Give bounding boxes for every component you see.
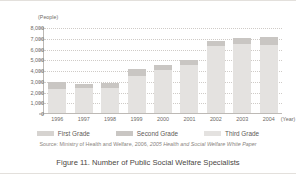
bar-segment bbox=[260, 45, 278, 114]
bar-segment bbox=[48, 82, 66, 90]
x-axis-tick-label: 2004 bbox=[255, 116, 283, 122]
bar-group bbox=[75, 84, 93, 114]
bar-segment bbox=[75, 88, 93, 114]
legend-item: Third Grade bbox=[204, 130, 259, 137]
legend-label: Third Grade bbox=[225, 130, 259, 137]
chart-legend: First GradeSecond GradeThird Grade bbox=[0, 127, 296, 139]
bar-group bbox=[233, 38, 251, 114]
plot-area bbox=[44, 28, 282, 114]
bar-group bbox=[154, 65, 172, 114]
legend-swatch bbox=[116, 131, 133, 136]
bar-segment bbox=[128, 76, 146, 114]
x-axis-tick-label: 2000 bbox=[149, 116, 177, 122]
x-axis-unit-label: (Year) bbox=[281, 116, 295, 122]
x-axis-tick-label: 1999 bbox=[123, 116, 151, 122]
x-axis-tick-label: 1998 bbox=[96, 116, 124, 122]
x-axis-tick-label: 2003 bbox=[228, 116, 256, 122]
bar-group bbox=[128, 69, 146, 114]
bar-group bbox=[207, 41, 225, 114]
bar-segment bbox=[233, 44, 251, 114]
gridline bbox=[44, 28, 282, 29]
x-axis-tick-label: 1996 bbox=[43, 116, 71, 122]
legend-label: Second Grade bbox=[137, 130, 178, 137]
bar-segment bbox=[154, 70, 172, 114]
x-axis-tick-label: 2001 bbox=[175, 116, 203, 122]
x-axis-tick-label: 1997 bbox=[70, 116, 98, 122]
y-axis-unit-label: (People) bbox=[38, 14, 58, 20]
bar-group bbox=[48, 82, 66, 114]
source-prefix: Source: Ministry of Health and Welfare, … bbox=[39, 141, 148, 147]
legend-item: First Grade bbox=[37, 130, 90, 137]
source-title: 2005 Health and Social Welfare White Pap… bbox=[150, 141, 257, 147]
chart-area: (People) 8,0007,0006,0005,0004,0003,0002… bbox=[0, 1, 296, 121]
figure-caption: Figure 11. Number of Public Social Welfa… bbox=[0, 158, 296, 167]
legend-label: First Grade bbox=[58, 130, 90, 137]
bar-segment bbox=[48, 89, 66, 114]
legend-swatch bbox=[204, 131, 221, 136]
bar-group bbox=[180, 60, 198, 114]
x-axis-line bbox=[44, 113, 282, 114]
legend-item: Second Grade bbox=[116, 130, 178, 137]
bar-segment bbox=[128, 69, 146, 76]
bar-segment bbox=[260, 37, 278, 46]
bar-group bbox=[260, 37, 278, 114]
x-axis-tick-label: 2002 bbox=[202, 116, 230, 122]
legend-swatch bbox=[37, 131, 54, 136]
bar-segment bbox=[101, 88, 119, 114]
bar-group bbox=[101, 83, 119, 114]
figure-container: (People) 8,0007,0006,0005,0004,0003,0002… bbox=[0, 0, 296, 174]
bar-segment bbox=[207, 46, 225, 114]
bar-segment bbox=[180, 65, 198, 114]
source-note: Source: Ministry of Health and Welfare, … bbox=[0, 141, 296, 147]
